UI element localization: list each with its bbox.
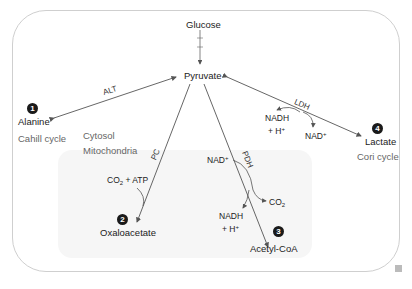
cofactor-ldh-nad: NAD+ (305, 131, 326, 141)
label-cori-cycle: Cori cycle (357, 152, 399, 162)
number-badge-3: 3 (273, 226, 284, 237)
h-superscript: + (281, 126, 285, 132)
cofactor-pdh-co2: CO2 (269, 198, 285, 208)
number-badge-1: 1 (27, 103, 38, 114)
label-cahill-cycle: Cahill cycle (18, 134, 66, 144)
number-badge-4: 4 (372, 123, 383, 134)
co2-text: CO (107, 175, 120, 185)
cofactor-pdh-h: + H+ (222, 224, 239, 234)
node-acetyl-coa: Acetyl-CoA (250, 244, 298, 254)
cofactor-ldh-h: + H+ (268, 126, 285, 136)
nad-text: NAD (207, 155, 225, 165)
node-lactate: Lactate (365, 137, 396, 147)
co2-text: CO (269, 197, 282, 207)
h-superscript: + (235, 224, 239, 230)
co2-subscript: 2 (282, 202, 285, 208)
cofactor-pdh-nadh: NADH (219, 212, 243, 221)
cofactor-pdh-nad: NAD+ (207, 155, 228, 165)
nad-superscript: + (225, 155, 229, 161)
node-oxaloacetate: Oxaloacetate (100, 228, 156, 238)
cofactor-co2-atp: CO2 + ATP (107, 176, 148, 186)
pathway-arrows (0, 0, 412, 289)
node-glucose: Glucose (186, 20, 221, 30)
nad-superscript: + (323, 131, 327, 137)
atp-text: + ATP (123, 175, 148, 185)
cofactor-ldh-nadh: NADH (265, 114, 289, 123)
number-badge-2: 2 (117, 214, 128, 225)
label-cytosol: Cytosol (83, 131, 115, 141)
node-alanine: Alanine (18, 117, 50, 127)
h-text: + H (268, 126, 281, 136)
label-mitochondria: Mitochondria (83, 146, 137, 156)
node-pyruvate: Pyruvate (184, 71, 222, 81)
expand-icon[interactable] (395, 265, 402, 272)
nad-text: NAD (305, 131, 323, 141)
h-text: + H (222, 224, 235, 234)
